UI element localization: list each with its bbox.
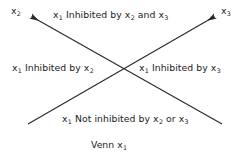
region-label-top: x1 Inhibited by x2 and x3 — [53, 10, 168, 19]
region-top-word-1: Inhibited by — [63, 9, 125, 20]
region-label-left: x1 Inhibited by x2 — [12, 63, 94, 72]
sub-3: 3 — [164, 14, 168, 21]
sub-1: 1 — [59, 14, 63, 21]
region-left-word-1: Inhibited by — [22, 62, 84, 73]
sub-1: 1 — [123, 144, 127, 151]
sub-1: 1 — [145, 67, 149, 74]
region-right-word-1: Inhibited by — [149, 62, 211, 73]
var-x: x — [12, 62, 18, 73]
var-x: x — [62, 113, 68, 124]
sub-2: 2 — [89, 67, 93, 74]
sub-1: 1 — [18, 67, 22, 74]
sub-3: 3 — [184, 118, 188, 125]
region-bottom-word-2: or — [163, 113, 179, 124]
var-x: x — [53, 9, 59, 20]
axis-endpoint-label-x2-sub: 2 — [17, 10, 21, 17]
var-x: x — [139, 62, 145, 73]
axis-endpoint-label-x2: x2 — [11, 6, 21, 15]
region-bottom-word-1: Not inhibited by — [72, 113, 153, 124]
sub-2: 2 — [130, 14, 134, 21]
sub-2: 2 — [159, 118, 163, 125]
axis-endpoint-label-x3-sub: 3 — [227, 10, 231, 17]
sub-1: 1 — [68, 118, 72, 125]
var-x: x — [153, 113, 159, 124]
region-top-word-2: and — [135, 9, 159, 20]
cross-axes-graphic — [0, 0, 248, 160]
axis-endpoint-label-x2-var: x — [11, 5, 17, 16]
axis-endpoint-label-x3-var: x — [221, 5, 227, 16]
diagram-caption: Venn x1 — [91, 140, 127, 149]
region-label-right: x1 Inhibited by x3 — [139, 63, 221, 72]
var-x: x — [117, 139, 123, 150]
venn-cross-diagram: x2 x3 x1 Inhibited by x2 and x3 x1 Inhib… — [0, 0, 248, 160]
region-label-bottom: x1 Not inhibited by x2 or x3 — [62, 114, 189, 123]
axis-endpoint-label-x3: x3 — [221, 6, 231, 15]
caption-word: Venn — [91, 139, 114, 150]
sub-3: 3 — [216, 67, 220, 74]
